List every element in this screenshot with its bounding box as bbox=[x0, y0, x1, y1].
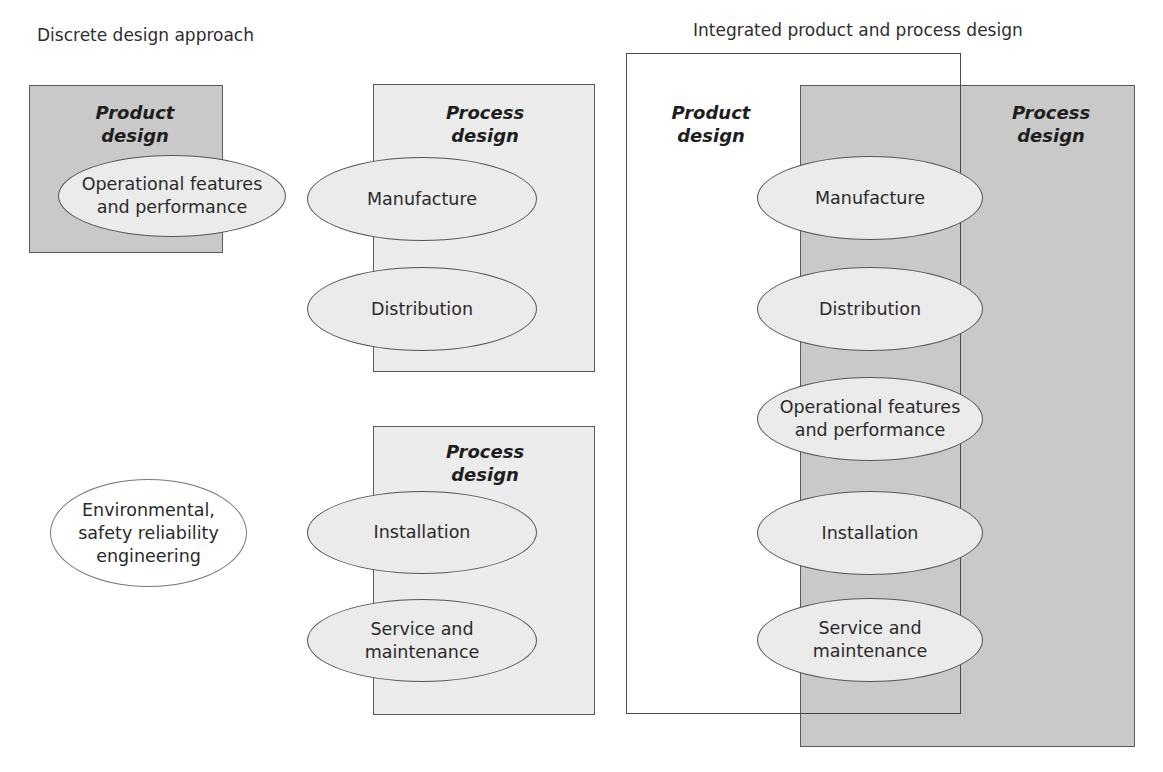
ellipse-operational-features-integrated: Operational features and performance bbox=[757, 377, 983, 461]
integrated-process-design-label: Process design bbox=[1006, 101, 1096, 147]
integrated-product-design-label: Product design bbox=[666, 101, 756, 147]
ellipse-label: Operational features and performance bbox=[82, 173, 263, 219]
ellipse-installation-discrete: Installation bbox=[307, 491, 537, 574]
integrated-approach-heading: Integrated product and process design bbox=[693, 20, 1023, 40]
discrete-process-design-label-1: Process design bbox=[440, 101, 530, 147]
ellipse-environmental-safety: Environmental, safety reliability engine… bbox=[50, 479, 247, 587]
ellipse-distribution-integrated: Distribution bbox=[757, 267, 983, 351]
discrete-product-design-label: Product design bbox=[90, 101, 180, 147]
ellipse-label: Distribution bbox=[819, 298, 921, 321]
ellipse-service-maintenance-integrated: Service and maintenance bbox=[757, 598, 983, 682]
ellipse-label: Environmental, safety reliability engine… bbox=[78, 499, 219, 568]
ellipse-label: Installation bbox=[374, 521, 471, 544]
ellipse-distribution-discrete: Distribution bbox=[307, 267, 537, 351]
ellipse-installation-integrated: Installation bbox=[757, 491, 983, 575]
discrete-process-design-label-2: Process design bbox=[440, 440, 530, 486]
ellipse-label: Operational features and performance bbox=[780, 396, 961, 442]
discrete-approach-heading: Discrete design approach bbox=[37, 25, 254, 45]
ellipse-service-maintenance-discrete: Service and maintenance bbox=[307, 599, 537, 682]
ellipse-label: Service and maintenance bbox=[813, 617, 928, 663]
ellipse-operational-features-discrete: Operational features and performance bbox=[58, 155, 286, 237]
ellipse-label: Distribution bbox=[371, 298, 473, 321]
ellipse-label: Installation bbox=[822, 522, 919, 545]
ellipse-label: Manufacture bbox=[815, 187, 925, 210]
ellipse-label: Manufacture bbox=[367, 188, 477, 211]
ellipse-label: Service and maintenance bbox=[365, 618, 480, 664]
ellipse-manufacture-integrated: Manufacture bbox=[757, 156, 983, 240]
ellipse-manufacture-discrete: Manufacture bbox=[307, 157, 537, 241]
